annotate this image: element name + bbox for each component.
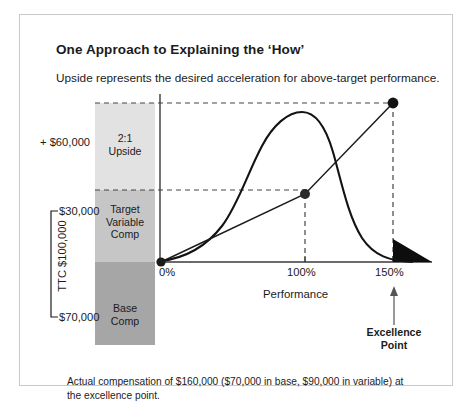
ttc-total-label: TTC $100,000 (56, 200, 68, 312)
x-tick-label-150: 150% (375, 266, 404, 278)
bar-label-upside: 2:1 Upside (95, 132, 155, 157)
bar-label-base-line1: Base (95, 302, 155, 315)
figure-root: FIGURE 7-4 One Approach to Explaining th… (0, 0, 462, 415)
bar-label-target-variable: Target Variable Comp (95, 203, 155, 241)
bar-label-base-line2: Comp (95, 315, 155, 328)
x-tick-label-0: 0% (159, 266, 175, 278)
amount-label-upside: + $60,000 (40, 136, 90, 148)
x-axis-title: Performance (263, 288, 328, 300)
excellence-point-label: Excellence Point (352, 326, 436, 352)
bar-label-target-line2: Variable (95, 216, 155, 229)
bar-label-target-line1: Target (95, 203, 155, 216)
figure-footnote: Actual compensation of $160,000 ($70,000… (67, 375, 417, 403)
figure-subtitle: Upside represents the desired accelerati… (56, 71, 440, 85)
figure-title: One Approach to Explaining the ‘How’ (56, 42, 304, 57)
excellence-point-text: Excellence Point (367, 326, 422, 351)
bar-label-base: Base Comp (95, 302, 155, 327)
bar-label-upside-line1: 2:1 (95, 132, 155, 145)
bar-label-target-line3: Comp (95, 228, 155, 241)
x-tick-label-100: 100% (287, 266, 316, 278)
amount-label-base: $70,000 (59, 311, 99, 323)
bar-label-upside-line2: Upside (95, 145, 155, 158)
